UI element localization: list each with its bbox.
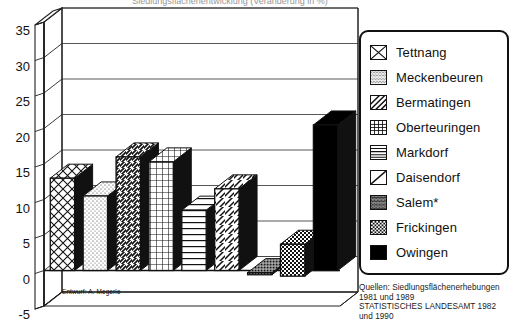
y-axis-tick-label: -5 xyxy=(2,308,30,321)
legend-swatch-stipple-light xyxy=(370,70,387,85)
legend-swatch-diagonal-single xyxy=(370,170,387,185)
legend-label: Markdorf xyxy=(396,146,448,159)
legend-label: Bermatingen xyxy=(396,96,471,109)
legend-item[interactable]: Oberteuringen xyxy=(370,115,506,140)
legend-item[interactable]: Bermatingen xyxy=(370,90,506,115)
legend-swatch-grid xyxy=(370,120,387,135)
chart-root: Siedlungsflächenentwicklung (Veränderung… xyxy=(0,0,518,335)
legend-label: Salem* xyxy=(396,196,439,209)
y-axis-tick-label: 10 xyxy=(2,202,30,215)
legend-item[interactable]: Markdorf xyxy=(370,140,506,165)
bar-daisendorf[interactable] xyxy=(215,175,257,271)
legend-label: Oberteuringen xyxy=(396,121,480,134)
legend-item[interactable]: Frickingen xyxy=(370,215,506,240)
legend-item[interactable]: Salem* xyxy=(370,190,506,215)
legend-item[interactable]: Daisendorf xyxy=(370,165,506,190)
y-axis-tick-label: 5 xyxy=(2,237,30,250)
legend-item[interactable]: Meckenbeuren xyxy=(370,65,506,90)
legend-label: Daisendorf xyxy=(396,171,460,184)
legend-item[interactable]: Tettnang xyxy=(370,40,506,65)
legend-swatch-diagonal-hatch xyxy=(370,95,387,110)
legend-swatch-cross-diagonal xyxy=(370,45,387,60)
y-axis-tick-label: 35 xyxy=(2,24,30,37)
y-axis-tick-label: 25 xyxy=(2,95,30,108)
legend-label: Meckenbeuren xyxy=(396,71,483,84)
source-note: Quellen: Siedlungsflächenerhebungen 1981… xyxy=(359,283,517,321)
y-axis-tick-label: 15 xyxy=(2,166,30,179)
legend-swatch-horizontal-lines xyxy=(370,145,387,160)
legend: TettnangMeckenbeurenBermatingenOberteuri… xyxy=(359,30,509,275)
legend-label: Tettnang xyxy=(396,46,447,59)
y-axis-tick-label: 20 xyxy=(2,131,30,144)
legend-swatch-checkerboard xyxy=(370,220,387,235)
legend-item[interactable]: Owingen xyxy=(370,240,506,265)
legend-swatch-solid-black xyxy=(370,245,387,260)
y-axis-tick-label: 0 xyxy=(2,273,30,286)
legend-label: Owingen xyxy=(396,246,448,259)
author-credit: Entwurf: A. Megerle xyxy=(62,288,121,295)
y-axis-tick-label: 30 xyxy=(2,60,30,73)
legend-label: Frickingen xyxy=(396,221,457,234)
legend-swatch-stipple-dark xyxy=(370,195,387,210)
bar-owingen[interactable] xyxy=(313,111,355,271)
